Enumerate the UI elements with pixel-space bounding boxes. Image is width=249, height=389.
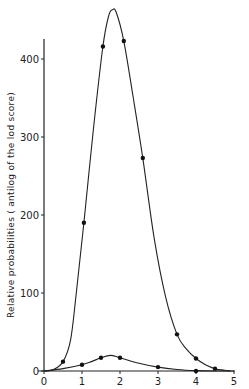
data-point (82, 221, 86, 225)
x-tick-label: 3 (155, 376, 161, 387)
data-point (194, 369, 198, 373)
y-axis-label: Relative probabilities ( antilog of the … (6, 92, 16, 318)
y-tick-label: 100 (20, 288, 39, 299)
x-tick-label: 5 (231, 376, 237, 387)
data-point (118, 356, 122, 360)
data-point (156, 365, 160, 369)
data-point (141, 156, 145, 160)
y-tick-label: 400 (20, 54, 39, 65)
data-point (122, 39, 126, 43)
x-tick-label: 0 (41, 376, 47, 387)
y-tick-label: 0 (33, 366, 39, 377)
data-points (61, 39, 217, 373)
y-tick-label: 300 (20, 132, 39, 143)
data-point (80, 363, 84, 367)
data-point (213, 366, 217, 370)
curves (44, 9, 234, 371)
data-point (194, 356, 198, 360)
upper-curve-line (44, 9, 230, 371)
x-tick-label: 2 (117, 376, 123, 387)
x-tick-label: 1 (79, 376, 85, 387)
y-tick-label: 200 (20, 210, 39, 221)
lower-curve-line (44, 355, 234, 371)
chart: 0100200300400012345 Relative probabiliti… (0, 0, 249, 389)
axes: 0100200300400012345 (20, 39, 237, 387)
data-point (61, 359, 65, 363)
data-point (99, 356, 103, 360)
data-point (101, 44, 105, 48)
x-tick-label: 4 (193, 376, 199, 387)
data-point (175, 332, 179, 336)
